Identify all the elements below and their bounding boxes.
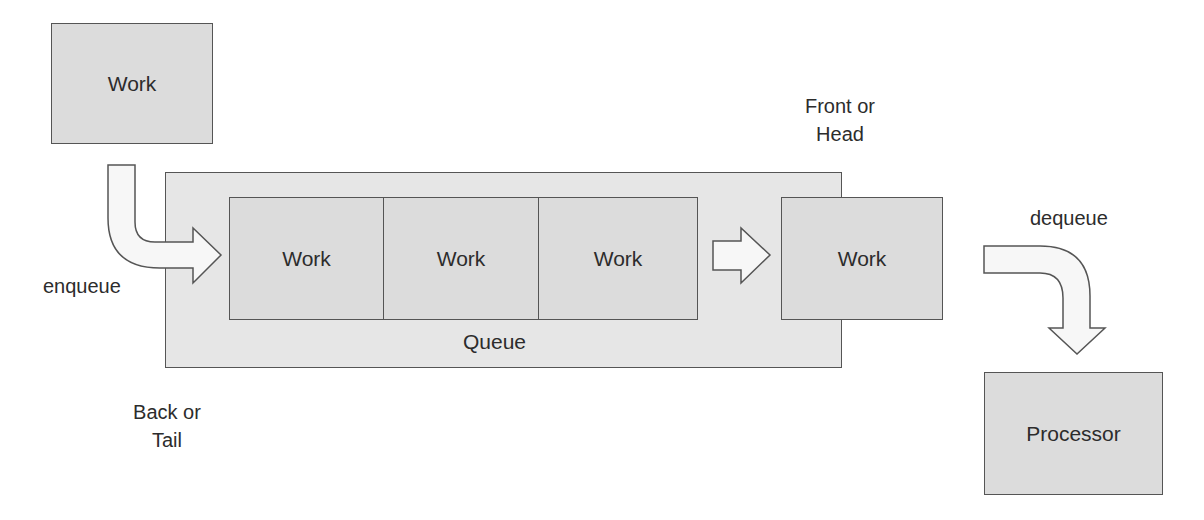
front-head-line2: Head — [785, 120, 895, 148]
back-tail-line2: Tail — [112, 426, 222, 454]
dequeue-arrow-icon — [984, 246, 1105, 354]
back-tail-label: Back or Tail — [112, 398, 222, 454]
back-tail-line1: Back or — [112, 398, 222, 426]
front-head-label: Front or Head — [785, 92, 895, 148]
dequeue-label: dequeue — [1030, 204, 1108, 232]
advance-arrow-icon — [713, 228, 770, 283]
enqueue-arrow-icon — [108, 165, 221, 283]
front-head-line1: Front or — [785, 92, 895, 120]
enqueue-label: enqueue — [43, 272, 121, 300]
